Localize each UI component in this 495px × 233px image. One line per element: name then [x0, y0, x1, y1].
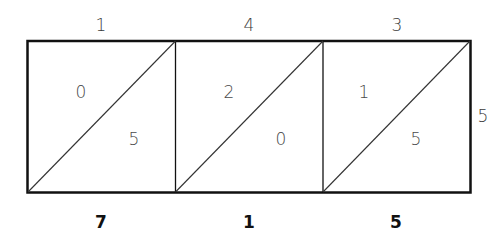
cell-3-lower-digit: 5	[411, 129, 422, 149]
result-digit-1: 7	[95, 212, 107, 232]
cell-2-lower-digit: 0	[276, 129, 287, 149]
top-digit-1: 1	[96, 15, 107, 35]
result-digit-3: 5	[390, 212, 402, 232]
cell-1-lower-digit: 5	[129, 129, 140, 149]
cell-2-upper-digit: 2	[224, 82, 235, 102]
lattice-multiplication-diagram: 1 4 3 5 0 5 2 0 1 5 7 1 5	[0, 0, 495, 233]
top-digit-3: 3	[392, 15, 403, 35]
right-digit: 5	[478, 106, 489, 126]
cell-3-upper-digit: 1	[359, 82, 370, 102]
cell-diagonal-1	[28, 41, 176, 192]
result-digit-2: 1	[243, 212, 255, 232]
cell-diagonal-2	[176, 41, 324, 192]
cell-diagonal-3	[323, 41, 470, 192]
top-digit-2: 4	[244, 15, 255, 35]
cell-1-upper-digit: 0	[76, 82, 87, 102]
